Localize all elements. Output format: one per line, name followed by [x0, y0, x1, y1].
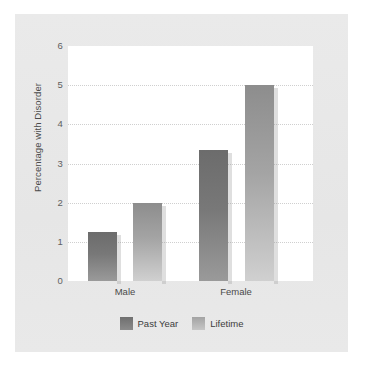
y-tick-0: 0 [39, 276, 63, 286]
y-tick-5: 5 [39, 80, 63, 90]
bar-male-lifetime [133, 203, 162, 281]
bar-female-lifetime [245, 85, 274, 281]
bar-female-past-year [199, 150, 228, 281]
y-tick-4: 4 [39, 119, 63, 129]
y-tick-1: 1 [39, 237, 63, 247]
legend-label-past-year: Past Year [138, 318, 179, 329]
gridline-5 [68, 85, 313, 86]
legend-label-lifetime: Lifetime [210, 318, 243, 329]
past-year-swatch-icon [120, 317, 133, 330]
y-tick-6: 6 [39, 41, 63, 51]
bar-chart-figure: Percentage with Disorder 6 5 4 3 2 1 0 M… [0, 0, 365, 369]
x-tick-male: Male [85, 286, 165, 297]
legend-entry-past-year: Past Year [120, 317, 179, 330]
y-tick-2: 2 [39, 198, 63, 208]
y-tick-3: 3 [39, 159, 63, 169]
x-tick-female: Female [196, 286, 276, 297]
chart-panel: Percentage with Disorder 6 5 4 3 2 1 0 M… [15, 14, 348, 352]
y-axis-tick-labels: 6 5 4 3 2 1 0 [35, 46, 63, 281]
x-axis-tick-labels: Male Female [68, 286, 313, 302]
bar-male-past-year [88, 232, 117, 281]
chart-legend: Past Year Lifetime [15, 312, 348, 334]
plot-area [68, 46, 313, 281]
legend-entry-lifetime: Lifetime [192, 317, 243, 330]
lifetime-swatch-icon [192, 317, 205, 330]
